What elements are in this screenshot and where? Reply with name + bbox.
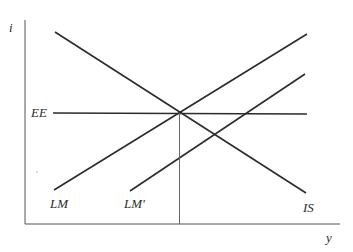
scan-artifact-dot: [36, 171, 37, 172]
ee-label: EE: [31, 106, 47, 119]
is-label: IS: [303, 201, 314, 214]
y-axis-label: i: [9, 21, 13, 34]
lm-label: LM: [50, 197, 68, 210]
diagram-canvas: [0, 0, 353, 252]
x-axis-label: y: [326, 231, 332, 244]
is-lm-ee-diagram: i y EE LM LM' IS: [0, 0, 353, 252]
lm-prime-label: LM': [124, 197, 145, 210]
lm-curve: [54, 34, 307, 190]
lm-prime-curve: [130, 74, 305, 191]
